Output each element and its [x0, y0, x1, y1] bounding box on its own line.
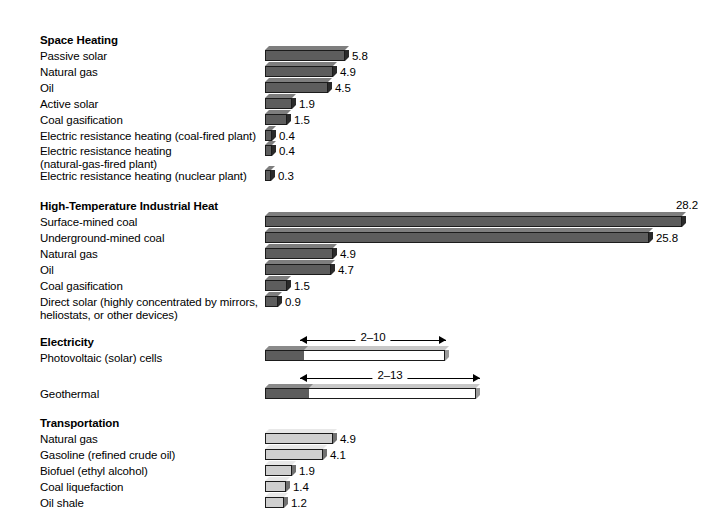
bar-value: 4.9 — [340, 66, 356, 78]
arrow-head-right-icon — [473, 374, 480, 382]
row-label: Direct solar (highly concentrated by mir… — [40, 296, 258, 321]
row-label: Passive solar — [40, 50, 107, 63]
range-arrow-geothermal: 2–13 — [300, 369, 480, 381]
bar-value: 1.5 — [294, 280, 310, 292]
row-label: Natural gas — [40, 433, 98, 446]
bar-value: 1.5 — [294, 114, 310, 126]
row-label: Oil — [40, 82, 54, 95]
row-label: Coal liquefaction — [40, 481, 123, 494]
section-header-space-heating: Space Heating — [40, 34, 118, 46]
range-arrow-photovoltaic: 2–10 — [300, 331, 446, 343]
arrow-head-right-icon — [439, 336, 446, 344]
bar-value: 1.9 — [299, 465, 315, 477]
bar-value: 5.8 — [352, 50, 368, 62]
row-label: Oil shale — [40, 497, 84, 510]
bar-value: 4.9 — [340, 248, 356, 260]
bar-value: 1.9 — [299, 98, 315, 110]
row-label: Natural gas — [40, 66, 98, 79]
row-label: Coal gasification — [40, 280, 123, 293]
row-label: Coal gasification — [40, 114, 123, 127]
bar-value: 25.8 — [656, 232, 678, 244]
bar-value: 28.2 — [676, 199, 698, 211]
bar-value: 1.2 — [291, 497, 307, 509]
section-header-electricity: Electricity — [40, 336, 94, 348]
row-label: Surface-mined coal — [40, 216, 137, 229]
arrow-head-left-icon — [300, 336, 307, 344]
bar-value: 1.4 — [293, 481, 309, 493]
bar-value: 0.4 — [279, 130, 295, 142]
section-header-high-temperature-industrial-heat: High-Temperature Industrial Heat — [40, 200, 218, 212]
bar-value: 0.4 — [279, 145, 295, 157]
range-value: 2–10 — [355, 331, 390, 343]
bar-value: 4.7 — [338, 264, 354, 276]
row-label: Underground-mined coal — [40, 232, 164, 245]
arrow-head-left-icon — [300, 374, 307, 382]
row-label: Electric resistance heating (nuclear pla… — [40, 170, 247, 183]
bar-value: 0.9 — [285, 296, 301, 308]
row-label: Photovoltaic (solar) cells — [40, 352, 162, 365]
range-value: 2–13 — [372, 369, 407, 381]
bar-value: 4.5 — [335, 82, 351, 94]
row-label: Active solar — [40, 98, 98, 111]
bar-value: 4.1 — [330, 449, 346, 461]
row-label: Oil — [40, 264, 54, 277]
row-label: Geothermal — [40, 388, 99, 401]
row-label: Natural gas — [40, 248, 98, 261]
bar-value: 4.9 — [340, 433, 356, 445]
bar-value: 0.3 — [278, 170, 294, 182]
row-label: Gasoline (refined crude oil) — [40, 449, 175, 462]
row-label: Electric resistance heating (coal-fired … — [40, 130, 256, 143]
row-label: Biofuel (ethyl alcohol) — [40, 465, 148, 478]
row-label: Electric resistance heating (natural-gas… — [40, 145, 172, 170]
section-header-transportation: Transportation — [40, 417, 119, 429]
